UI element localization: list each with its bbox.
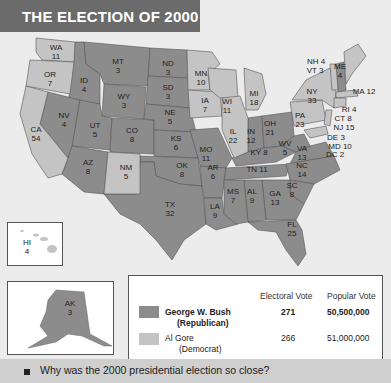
- label-WI: WI11: [222, 97, 232, 115]
- alaska-inset: AK3: [7, 281, 114, 355]
- label-VT: VT 3: [307, 66, 324, 75]
- label-CA: CA54: [30, 125, 42, 143]
- hawaii-inset: HI4: [7, 222, 63, 266]
- label-NC: NC14: [296, 161, 308, 179]
- electoral-vote-header: Electoral Vote: [260, 291, 312, 301]
- state-ME: [344, 44, 366, 84]
- state-NJ: [324, 110, 332, 126]
- gore-party: (Democrat): [179, 344, 222, 354]
- label-IN: IN12: [247, 127, 256, 145]
- label-DE: DE 3: [327, 133, 345, 142]
- label-RI: RI 4: [342, 105, 357, 114]
- label-NY: NY33: [306, 87, 318, 105]
- state-MD: [304, 126, 328, 138]
- map-title: THE ELECTION OF 2000: [22, 8, 199, 25]
- label-MI: MI18: [250, 89, 259, 107]
- title-bar: THE ELECTION OF 2000: [0, 0, 200, 32]
- gore-electoral: 266: [281, 333, 295, 343]
- label-PA: PA23: [295, 111, 306, 129]
- label-KY: KY 8: [250, 148, 268, 157]
- question-bar: Why was the 2000 presidential election s…: [0, 359, 391, 383]
- label-VA: VA13: [297, 144, 308, 162]
- gore-name: Al Gore: [165, 333, 194, 343]
- svg-text:HI4: HI4: [23, 238, 31, 256]
- question-text: Why was the 2000 presidential election s…: [40, 364, 269, 376]
- republican-swatch: [139, 306, 159, 318]
- bullet-square-icon: [24, 369, 30, 375]
- state-FL: [248, 220, 306, 266]
- label-OH: OH21: [264, 119, 276, 137]
- label-CT: CT 8: [334, 114, 352, 123]
- label-FL: FL25: [287, 220, 297, 238]
- results-legend: Electoral Vote Popular Vote George W. Bu…: [128, 275, 383, 360]
- state-NM: [104, 152, 140, 194]
- bush-popular: 50,500,000: [327, 307, 370, 317]
- label-MA: MA 12: [353, 87, 376, 96]
- label-TN: TN 11: [246, 165, 268, 174]
- label-DC: DC 2: [326, 150, 345, 159]
- label-TX: TX32: [165, 200, 176, 218]
- bush-electoral: 271: [281, 307, 295, 317]
- democrat-swatch: [139, 333, 159, 345]
- label-NH: NH 4: [307, 57, 326, 66]
- popular-vote-header: Popular Vote: [327, 291, 376, 301]
- gore-popular: 51,000,000: [327, 333, 370, 343]
- label-NJ: NJ 15: [334, 123, 355, 132]
- bush-party: (Republican): [177, 318, 228, 328]
- bush-name: George W. Bush: [165, 307, 231, 317]
